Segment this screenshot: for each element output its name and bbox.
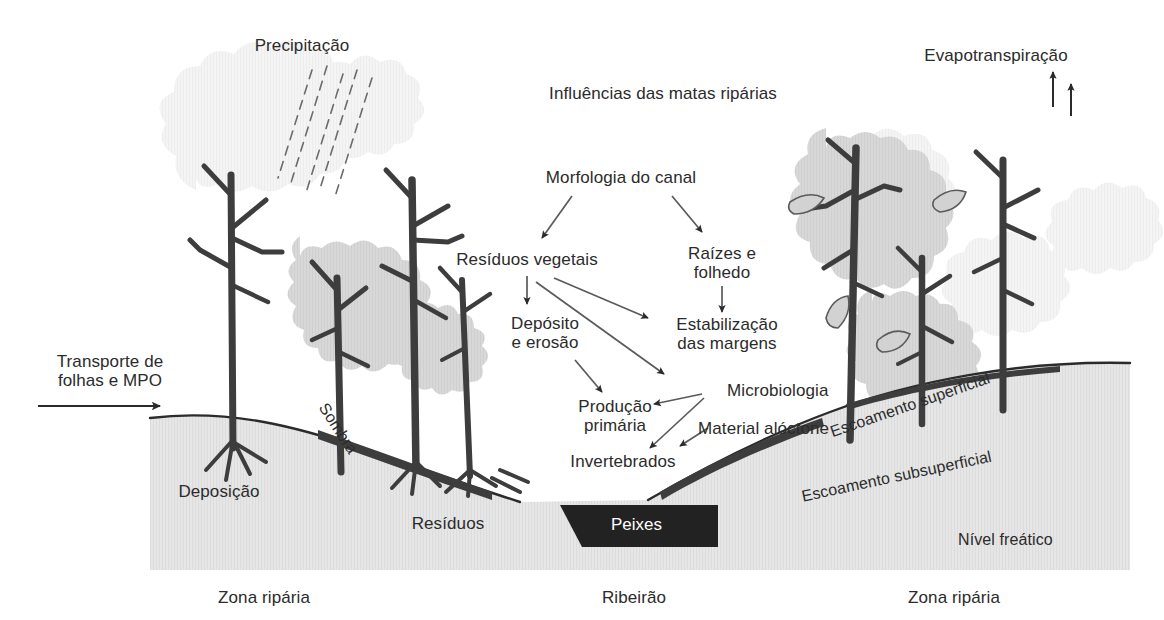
tree-branch — [190, 240, 232, 268]
arrow-residuos-vegetais-to-estabilizacao — [554, 278, 648, 318]
tree-trunk — [231, 175, 233, 448]
node-deposito-e-erosao: Depósito e erosão — [511, 314, 579, 352]
arrow-morfologia-to-raizes — [672, 196, 702, 232]
canopy-blob-far-farright — [1045, 182, 1163, 274]
bank-root-cluster — [492, 470, 528, 492]
diagram-title: Influências das matas ripárias — [549, 84, 777, 103]
node-material-aloctone: Material alóctone — [698, 419, 829, 438]
node-residuos-vegetais: Resíduos vegetais — [456, 250, 598, 269]
arrow-microbiologia-to-invertebrados — [650, 398, 704, 448]
label-residuos: Resíduos — [412, 514, 485, 533]
tree-branch — [232, 285, 268, 302]
node-raizes-e-folhedo: Raízes e folhedo — [688, 244, 756, 282]
arrow-morfologia-to-residuos-vegetais — [542, 196, 572, 238]
tree-branch — [440, 268, 462, 292]
tree-branch — [386, 170, 412, 198]
tree-branch — [413, 206, 448, 226]
tree-branch — [1003, 190, 1038, 208]
tree-branch — [232, 200, 266, 228]
tree-branch — [232, 238, 282, 252]
tree-branch — [463, 294, 490, 312]
tree-branch — [976, 152, 1003, 178]
label-ribeirao: Ribeirão — [602, 588, 666, 607]
arrow-microbiologia-to-producao — [654, 394, 702, 404]
label-nivel-freatico: Nível freático — [958, 531, 1053, 549]
node-morfologia-do-canal: Morfologia do canal — [546, 168, 696, 187]
label-zona-riparia-left: Zona ripária — [218, 588, 310, 607]
label-transporte-folhas-mpo: Transporte de folhas e MPO — [57, 352, 164, 390]
leaf-icon — [826, 296, 849, 328]
label-deposicao: Deposição — [178, 482, 259, 501]
tree-root — [468, 472, 470, 496]
node-invertebrados: Invertebrados — [570, 452, 675, 471]
label-zona-riparia-right: Zona ripária — [908, 588, 1000, 607]
diagram-canvas: Precipitação Evapotranspiração Influênci… — [0, 0, 1164, 620]
node-estabilizacao-das-margens: Estabilização das margens — [676, 315, 777, 353]
node-microbiologia: Microbiologia — [727, 381, 828, 400]
node-producao-primaria: Produção primária — [578, 397, 652, 435]
label-precipitacao: Precipitação — [255, 36, 350, 55]
arrow-deposito-to-producao — [575, 360, 602, 392]
evapotranspiration-arrows — [1053, 72, 1071, 116]
label-evapotranspiracao: Evapotranspiração — [924, 46, 1067, 65]
label-peixes: Peixes — [611, 515, 662, 535]
tree-branch — [413, 236, 462, 242]
